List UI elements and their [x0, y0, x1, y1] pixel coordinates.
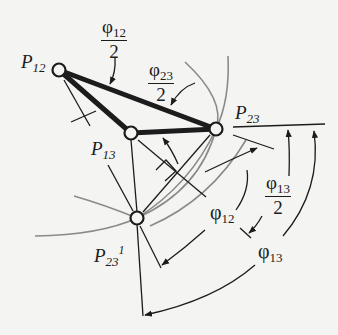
links — [59, 70, 216, 133]
label-p13-main: P — [91, 138, 103, 159]
link-p12-p23 — [59, 70, 216, 129]
phi12-sub: 12 — [222, 211, 235, 226]
link-p13-p23 — [131, 129, 216, 133]
phi13-half-fraction: φ13 2 — [265, 173, 291, 217]
pole-p23-prime — [131, 212, 144, 225]
phi-symbol: φ — [149, 59, 160, 80]
label-p23-prime: P231 — [94, 244, 125, 268]
pole-p13 — [125, 127, 138, 140]
phi13-half-denominator: 2 — [273, 197, 283, 217]
phi13-half-numerator: φ13 — [265, 173, 291, 197]
phi13-half-sub: 13 — [277, 181, 290, 196]
pole-p12 — [53, 64, 66, 77]
label-phi12: φ12 — [210, 202, 235, 225]
phi23-half-sub: 23 — [160, 68, 173, 83]
phi23-half-denominator: 2 — [156, 84, 166, 104]
label-p23p-sub: 23 — [106, 254, 119, 269]
label-p23: P23 — [235, 103, 260, 125]
phi-symbol: φ — [266, 172, 277, 193]
phi12-half-sub: 12 — [113, 25, 126, 40]
phi12-half-denominator: 2 — [109, 41, 119, 61]
phi23-half-numerator: φ23 — [148, 60, 174, 84]
link-p12-p13 — [59, 70, 131, 133]
label-p23-main: P — [235, 102, 247, 123]
phi-symbol: φ — [258, 240, 270, 262]
label-p12-sub: 12 — [33, 60, 46, 75]
phi13-sub: 13 — [270, 250, 283, 265]
pole-p23 — [210, 123, 223, 136]
phi12-half-numerator: φ12 — [101, 17, 127, 41]
label-p23p-main: P — [94, 245, 106, 266]
label-p23-sub: 23 — [247, 111, 260, 126]
label-p13-sub: 13 — [103, 147, 116, 162]
label-p12: P12 — [21, 52, 46, 74]
phi12-half-fraction: φ12 2 — [101, 17, 127, 61]
label-phi13: φ13 — [258, 241, 283, 264]
phi-symbol: φ — [102, 16, 113, 37]
label-p12-main: P — [21, 51, 33, 72]
label-p13: P13 — [91, 139, 116, 161]
phi-symbol: φ — [210, 201, 222, 223]
pole-diagram — [0, 0, 338, 335]
phi23-half-fraction: φ23 2 — [148, 60, 174, 104]
label-p23p-sup: 1 — [119, 243, 125, 257]
